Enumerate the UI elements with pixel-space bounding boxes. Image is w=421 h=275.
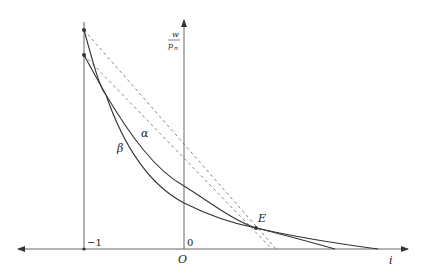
point-lower — [82, 53, 86, 57]
y-label-subscript: n — [174, 44, 178, 51]
tick-zero-label: 0 — [187, 237, 193, 248]
diagram-canvas: α β E i O 0 −1 w p n — [0, 0, 421, 275]
y-axis-label: w p n — [168, 30, 180, 51]
point-top — [82, 28, 86, 32]
dashed-line-lower — [84, 55, 272, 249]
point-e — [254, 226, 258, 230]
y-label-denominator: p — [168, 41, 173, 50]
origin-label: O — [178, 253, 187, 266]
dashed-line-upper — [84, 30, 276, 249]
tick-minus-one-label: −1 — [87, 237, 102, 248]
x-axis-label: i — [389, 254, 393, 267]
point-e-label: E — [257, 212, 266, 225]
curve-alpha-label: α — [141, 127, 149, 140]
curve-beta — [84, 30, 335, 249]
point-minus-one-base — [82, 247, 85, 250]
curve-alpha — [84, 55, 378, 249]
y-label-numerator: w — [172, 30, 179, 39]
curve-beta-label: β — [116, 142, 123, 155]
